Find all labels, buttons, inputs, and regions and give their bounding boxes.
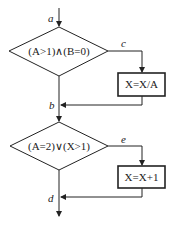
process2-text: X=X+1	[125, 171, 159, 183]
label-c: c	[121, 37, 126, 49]
edge-c	[108, 51, 142, 72]
label-a: a	[48, 12, 54, 24]
process1-text: X=X/A	[125, 78, 158, 90]
decision1-text: (A>1)∧(B=0)	[28, 45, 90, 58]
label-d: d	[48, 192, 54, 204]
edge-return2	[61, 188, 142, 197]
label-b: b	[49, 99, 55, 111]
flowchart: a (A>1)∧(B=0) c X=X/A b (A=2)∨(X>1) e X=…	[0, 0, 176, 225]
label-e: e	[121, 133, 126, 145]
edge-return1	[61, 96, 142, 105]
decision2-text: (A=2)∨(X>1)	[28, 140, 90, 153]
edge-e	[108, 146, 142, 165]
